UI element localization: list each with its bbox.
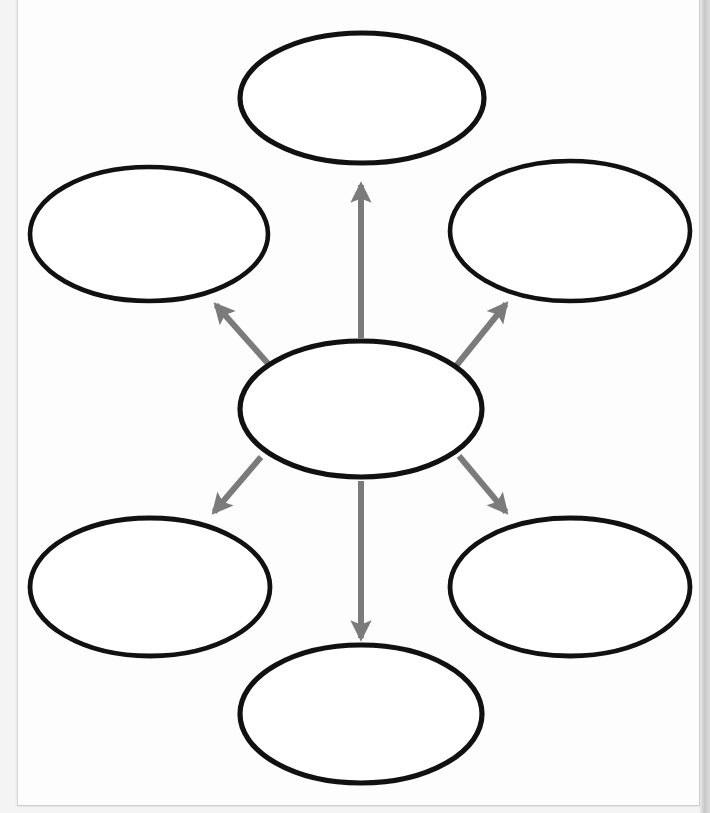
node-top[interactable] <box>240 33 484 163</box>
node-bottom-ellipse[interactable] <box>240 645 482 783</box>
concept-map-diagram <box>0 0 710 813</box>
node-center-ellipse[interactable] <box>240 341 482 477</box>
worksheet-page <box>0 0 710 813</box>
node-bottom-right[interactable] <box>450 518 690 656</box>
node-bottom-left[interactable] <box>30 518 270 656</box>
node-layer <box>30 33 690 783</box>
node-bottom-left-ellipse[interactable] <box>30 518 270 656</box>
connector-center-to-bottom-left[interactable] <box>214 457 261 512</box>
node-top-left[interactable] <box>30 167 268 301</box>
connector-center-to-top-right[interactable] <box>456 304 506 366</box>
node-top-right[interactable] <box>450 161 690 301</box>
node-bottom-right-ellipse[interactable] <box>450 518 690 656</box>
node-bottom[interactable] <box>240 645 482 783</box>
node-top-right-ellipse[interactable] <box>450 161 690 301</box>
node-top-left-ellipse[interactable] <box>30 167 268 301</box>
node-top-ellipse[interactable] <box>240 33 484 163</box>
connector-center-to-top-left[interactable] <box>216 305 271 367</box>
connector-center-to-bottom-right[interactable] <box>459 456 506 512</box>
node-center[interactable] <box>240 341 482 477</box>
